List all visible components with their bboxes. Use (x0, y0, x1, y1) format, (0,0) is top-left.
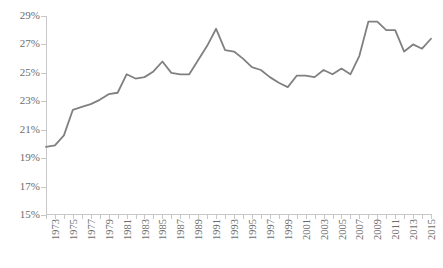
x-tick-label: 1981 (123, 219, 133, 263)
x-axis-tick (180, 215, 181, 219)
x-axis-labels: 1973197519771979198119831985198719891991… (0, 219, 443, 268)
y-tick-label: 23% (0, 95, 40, 106)
x-tick-label: 1995 (248, 219, 258, 263)
x-axis-tick (91, 215, 92, 219)
x-axis-tick (404, 215, 405, 219)
x-tick-label: 2001 (302, 219, 312, 263)
x-axis-tick (55, 215, 56, 219)
x-axis-tick (386, 215, 387, 219)
y-tick-label: 27% (0, 38, 40, 49)
x-axis-tick (252, 215, 253, 219)
x-axis-tick (234, 215, 235, 219)
x-axis-tick (118, 215, 119, 219)
x-axis-tick (306, 215, 307, 219)
x-axis-tick (324, 215, 325, 219)
line-chart: 15%17%19%21%23%25%27%29% 197319751977197… (0, 0, 443, 268)
x-tick-label: 2013 (409, 219, 419, 263)
y-tick-label: 25% (0, 67, 40, 78)
x-tick-label: 1993 (230, 219, 240, 263)
x-tick-label: 1989 (194, 219, 204, 263)
x-axis-tick (395, 215, 396, 219)
x-axis-tick (413, 215, 414, 219)
x-tick-label: 2015 (427, 219, 437, 263)
y-axis-tick (41, 130, 46, 131)
x-axis-tick (82, 215, 83, 219)
y-tick-label: 29% (0, 10, 40, 21)
x-axis-tick (100, 215, 101, 219)
y-axis-tick (41, 16, 46, 17)
x-axis-tick (368, 215, 369, 219)
x-tick-label: 1985 (158, 219, 168, 263)
x-tick-label: 1991 (212, 219, 222, 263)
x-axis-tick (162, 215, 163, 219)
x-axis-tick (359, 215, 360, 219)
x-axis-tick (198, 215, 199, 219)
x-axis-tick (136, 215, 137, 219)
x-axis-tick (189, 215, 190, 219)
x-axis-tick (171, 215, 172, 219)
x-axis-tick (46, 215, 47, 219)
x-axis-tick (207, 215, 208, 219)
x-tick-label: 1987 (176, 219, 186, 263)
x-tick-label: 1975 (69, 219, 79, 263)
x-axis-tick (350, 215, 351, 219)
x-axis-tick (297, 215, 298, 219)
plot-area (46, 16, 431, 215)
x-axis-tick (127, 215, 128, 219)
y-axis-tick (41, 187, 46, 188)
x-axis-tick (73, 215, 74, 219)
y-tick-label: 19% (0, 152, 40, 163)
y-tick-label: 17% (0, 181, 40, 192)
x-axis-tick (109, 215, 110, 219)
x-axis-tick (333, 215, 334, 219)
x-axis-tick (261, 215, 262, 219)
y-axis-labels: 15%17%19%21%23%25%27%29% (0, 0, 44, 230)
y-tick-label: 21% (0, 124, 40, 135)
y-axis-tick (41, 44, 46, 45)
x-axis-tick (422, 215, 423, 219)
y-axis-tick (41, 73, 46, 74)
x-tick-label: 1983 (141, 219, 151, 263)
y-axis-tick (41, 101, 46, 102)
x-tick-label: 1979 (105, 219, 115, 263)
x-axis-tick (431, 215, 432, 219)
x-tick-label: 2005 (338, 219, 348, 263)
x-tick-label: 1999 (284, 219, 294, 263)
x-tick-label: 1977 (87, 219, 97, 263)
x-axis-tick (288, 215, 289, 219)
y-axis-tick (41, 158, 46, 159)
x-axis-tick (64, 215, 65, 219)
x-tick-label: 2011 (391, 219, 401, 263)
data-series-line (46, 22, 431, 147)
x-axis-tick (341, 215, 342, 219)
x-tick-label: 2007 (355, 219, 365, 263)
x-axis-tick (225, 215, 226, 219)
x-tick-label: 1997 (266, 219, 276, 263)
x-axis-tick (216, 215, 217, 219)
x-tick-label: 1973 (51, 219, 61, 263)
x-axis-tick (270, 215, 271, 219)
x-tick-label: 2009 (373, 219, 383, 263)
x-axis-tick (144, 215, 145, 219)
x-tick-label: 2003 (320, 219, 330, 263)
x-axis-tick (315, 215, 316, 219)
data-line-svg (46, 16, 431, 215)
x-axis-tick (153, 215, 154, 219)
x-axis-tick (377, 215, 378, 219)
x-axis-tick (279, 215, 280, 219)
x-axis-tick (243, 215, 244, 219)
